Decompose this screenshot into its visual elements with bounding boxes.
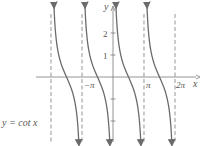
x-axis-label: x	[193, 78, 197, 89]
cot-branch	[147, 6, 172, 144]
cot-branch	[54, 6, 79, 144]
x-tick-label-pi: π	[146, 80, 151, 90]
x-tick-label-2pi: 2π	[176, 80, 185, 90]
y-tick-label-1: 1	[103, 51, 108, 61]
cot-branch	[85, 6, 110, 144]
function-label: y = cot x	[2, 117, 37, 128]
y-axis-label: y	[104, 1, 108, 12]
x-tick-label-neg-pi: −π	[84, 80, 95, 90]
y-tick-label-2: 2	[103, 29, 108, 39]
cot-branch	[116, 6, 141, 144]
